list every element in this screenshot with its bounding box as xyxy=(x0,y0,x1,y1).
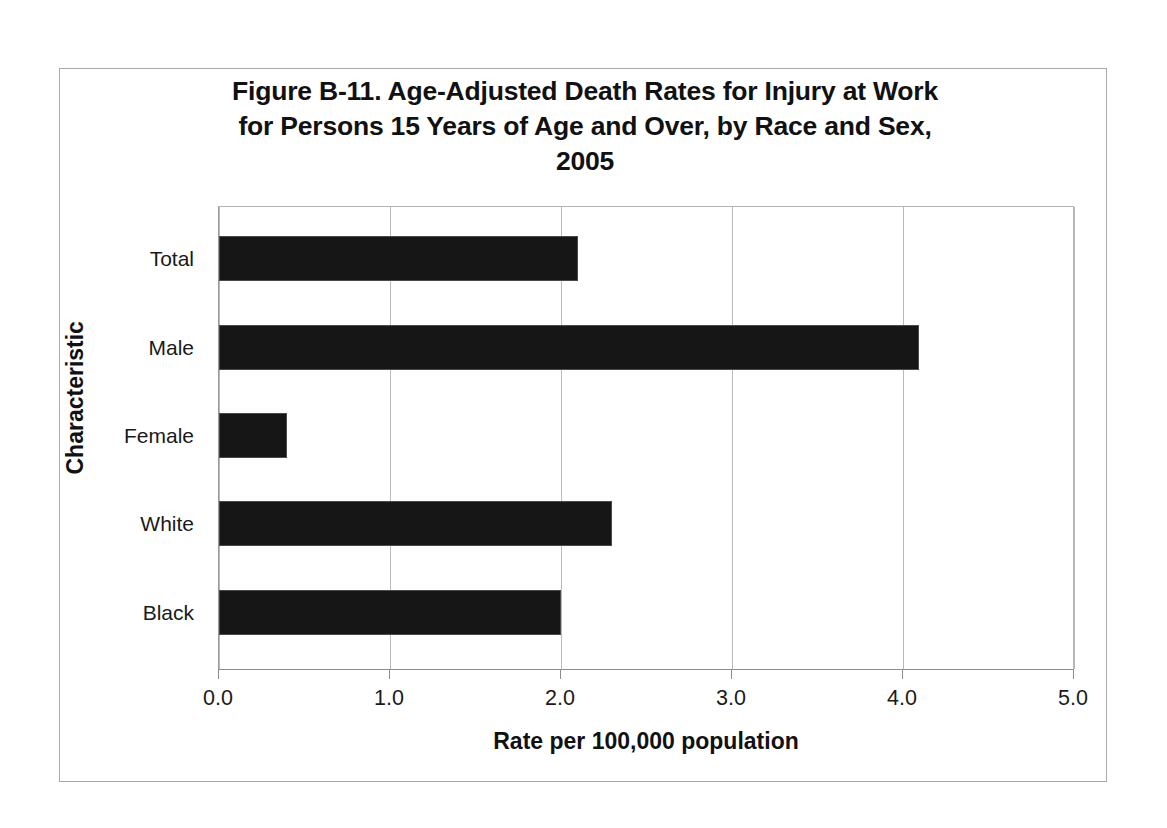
x-tick-mark-0 xyxy=(218,670,219,679)
x-tick-mark-1 xyxy=(389,670,390,679)
bar-female[interactable] xyxy=(219,413,287,458)
chart-title: Figure B-11. Age-Adjusted Death Rates fo… xyxy=(120,74,1050,179)
x-tick-mark-2 xyxy=(560,670,561,679)
x-tick-label-3: 3.0 xyxy=(716,686,746,711)
chart-title-line-3: 2005 xyxy=(120,144,1050,179)
y-axis-label-total: Total xyxy=(150,247,194,271)
chart-title-line-1: Figure B-11. Age-Adjusted Death Rates fo… xyxy=(120,74,1050,109)
y-axis-label-female: Female xyxy=(124,424,194,448)
figure-root: Figure B-11. Age-Adjusted Death Rates fo… xyxy=(0,0,1167,828)
x-tick-label-4: 4.0 xyxy=(887,686,917,711)
bar-total[interactable] xyxy=(219,236,578,281)
x-tick-label-0: 0.0 xyxy=(203,686,233,711)
bar-male[interactable] xyxy=(219,325,919,370)
x-tick-label-2: 2.0 xyxy=(545,686,575,711)
x-tick-label-5: 5.0 xyxy=(1058,686,1088,711)
bar-white[interactable] xyxy=(219,501,612,546)
plot-area xyxy=(218,206,1074,670)
y-axis-label-male: Male xyxy=(148,336,194,360)
y-axis-title: Characteristic xyxy=(62,429,89,475)
x-tick-label-1: 1.0 xyxy=(374,686,404,711)
y-axis-label-white: White xyxy=(140,512,194,536)
x-tick-mark-3 xyxy=(731,670,732,679)
x-tick-mark-4 xyxy=(902,670,903,679)
gridline-5 xyxy=(1074,207,1075,669)
y-axis-label-black: Black xyxy=(143,601,194,625)
chart-title-line-2: for Persons 15 Years of Age and Over, by… xyxy=(120,109,1050,144)
x-axis-title: Rate per 100,000 population xyxy=(218,728,1074,755)
bar-black[interactable] xyxy=(219,590,561,635)
bars-layer xyxy=(219,207,1073,669)
x-tick-mark-5 xyxy=(1073,670,1074,679)
x-axis-ticks: 0.0 1.0 2.0 3.0 4.0 5.0 xyxy=(218,670,1074,730)
